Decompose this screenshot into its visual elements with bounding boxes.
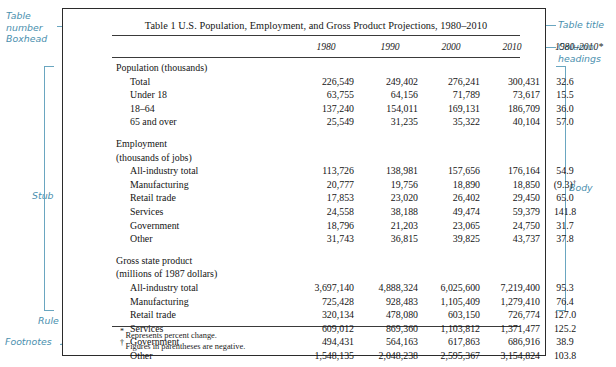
row-value: 1,279,410 [462,296,540,307]
row-value: 176,164 [462,165,540,176]
row-value: 65.0 [536,192,594,203]
annotation-table-number-line1: Table [6,10,31,21]
row-stub: Retail trade [130,192,176,203]
row-stub: Services [130,206,163,217]
column-heading-2010: 2010 [484,41,540,52]
section-gap [112,247,520,255]
row-value: 31.7 [536,220,594,231]
table-row: Retail trade320,134478,080603,150726,774… [112,309,520,323]
row-value: 127.0 [536,309,594,320]
bracket-stub [44,66,54,311]
row-stub: Manufacturing [130,296,189,307]
column-heading-1980: 1980 [298,41,354,52]
row-stub: Government [130,220,179,231]
row-value: 103.8 [536,350,594,361]
table-row: Services24,55838,18849,47459,379141.8 [112,206,520,220]
annotation-boxhead-label: Boxhead [6,33,47,44]
row-value: 29,450 [462,192,540,203]
column-heading-1980-2010: 1980–2010* [540,41,616,52]
section-heading-row: (thousands of jobs) [112,152,520,166]
row-value: 59,379 [462,206,540,217]
row-stub: All-industry total [130,165,198,176]
section-heading: (millions of 1987 dollars) [116,268,217,279]
section-heading: Population (thousands) [116,62,207,73]
section-heading-row: (millions of 1987 dollars) [112,268,520,282]
footnote: *Represents percent change. [120,330,520,341]
table-row: All-industry total3,697,1404,888,3246,02… [112,282,520,296]
row-value: 36.0 [536,103,594,114]
rule-top [112,35,520,36]
row-value: 57.0 [536,116,594,127]
section-heading: (thousands of jobs) [116,152,192,163]
annotation-rule-label: Rule [38,315,59,326]
row-value: 726,774 [462,309,540,320]
annotation-rule: Rule [38,315,59,327]
footnote-text: Figures in parentheses are negative. [126,342,246,351]
table-row: Manufacturing20,77719,75618,89018,850(9.… [112,179,520,193]
row-value: 125.2 [536,323,594,334]
row-stub: Retail trade [130,309,176,320]
row-stub: Other [130,233,152,244]
rule-head [112,57,520,58]
table-row: Manufacturing725,428928,4831,105,4091,27… [112,296,520,310]
row-value: 141.8 [536,206,594,217]
row-stub: 65 and over [130,116,177,127]
row-stub: Manufacturing [130,179,189,190]
row-value: 32.6 [536,76,594,87]
footnote-text: Represents percent change. [126,331,217,340]
row-stub: Total [130,76,150,87]
annotation-table-number: Table number [6,10,43,33]
row-value: 300,431 [462,76,540,87]
row-value: 18,850 [462,179,540,190]
section-heading: Gross state product [116,255,192,266]
annotation-table-number-line2: number [6,22,43,33]
table-row: 65 and over25,54931,23535,32240,10457.0 [112,116,520,130]
row-value: 186,709 [462,103,540,114]
row-value: 43,737 [462,233,540,244]
annotation-boxhead: Boxhead [6,33,47,45]
table-row: All-industry total113,726138,981157,6561… [112,165,520,179]
row-value: (9.3)† [536,179,594,190]
annotation-table-title-label: Table title [558,19,604,30]
row-value: 38.9 [536,336,594,347]
row-stub: All-industry total [130,282,198,293]
row-stub: 18–64 [130,103,155,114]
row-value: 37.8 [536,233,594,244]
annotation-table-title: Table title [558,19,604,31]
section-heading: Employment [116,138,167,149]
table-row: Total226,549249,402276,241300,43132.6 [112,76,520,90]
row-value: 15.5 [536,89,594,100]
table-row: Other31,74336,81539,82543,73737.8 [112,233,520,247]
row-value: 73,617 [462,89,540,100]
row-value: 95.3 [536,282,594,293]
table-row: Under 1863,75564,15671,78973,61715.5 [112,89,520,103]
column-heading-1990: 1990 [362,41,418,52]
table-row: Retail trade17,85323,02026,40229,45065.0 [112,192,520,206]
section-heading-row: Population (thousands) [112,62,520,76]
table-row: Government18,79621,20323,06524,75031.7 [112,220,520,234]
table-row: 18–64137,240154,011169,131186,70936.0 [112,103,520,117]
row-value: 76.4 [536,296,594,307]
row-value: 54.9 [536,165,594,176]
annotation-footnotes: Footnotes [5,336,52,348]
annotation-footnotes-label: Footnotes [5,336,52,347]
column-headings-row: 1980 1990 2000 2010 1980–2010* [112,41,520,55]
section-gap [112,130,520,138]
section-heading-row: Employment [112,138,520,152]
section-heading-row: Gross state product [112,255,520,269]
footnotes-block: *Represents percent change.†Figures in p… [120,330,520,352]
row-value: 7,219,400 [462,282,540,293]
table-title: Table 1 U.S. Population, Employment, and… [112,20,520,31]
column-heading-2000: 2000 [422,41,480,52]
footnote: †Figures in parentheses are negative. [120,341,520,352]
row-stub: Under 18 [130,89,167,100]
row-value: 24,750 [462,220,540,231]
row-value: 40,104 [462,116,540,127]
annotation-column-headings-line2: headings [558,53,601,64]
table-body: Population (thousands)Total226,549249,40… [112,62,520,363]
